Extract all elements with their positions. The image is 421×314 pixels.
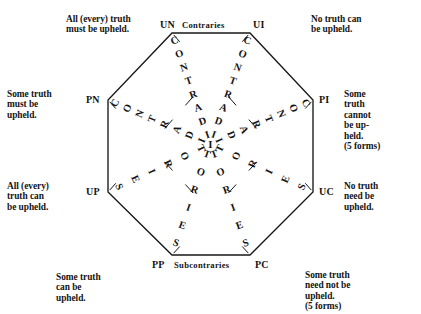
gloss-PI: Some truth cannot be up- held. (5 forms) bbox=[344, 89, 418, 151]
svg-text:I: I bbox=[263, 167, 275, 175]
svg-text:T: T bbox=[183, 74, 193, 87]
svg-text:R: R bbox=[221, 183, 232, 196]
svg-text:N: N bbox=[275, 108, 288, 120]
svg-text:O: O bbox=[215, 165, 226, 178]
vertex-label-UP: UP bbox=[86, 186, 100, 197]
svg-text:C: C bbox=[169, 34, 180, 47]
svg-text:N: N bbox=[232, 61, 243, 74]
gloss-UP: All (every) truth can be upheld. bbox=[7, 181, 85, 212]
svg-text:A: A bbox=[170, 123, 183, 135]
svg-text:N: N bbox=[133, 107, 146, 119]
vertex-label-PP: PP bbox=[152, 259, 165, 270]
svg-text:A: A bbox=[218, 101, 229, 114]
svg-text:I: I bbox=[213, 136, 225, 144]
gloss-PC: Some truth need not be upheld. (5 forms) bbox=[305, 270, 409, 312]
gloss-UC: No truth need be upheld. bbox=[344, 181, 418, 212]
svg-text:D: D bbox=[197, 115, 208, 128]
svg-text:I: I bbox=[185, 201, 192, 213]
svg-text:R: R bbox=[162, 158, 175, 170]
svg-text:D: D bbox=[183, 129, 196, 140]
svg-text:A: A bbox=[238, 124, 251, 136]
svg-text:E: E bbox=[234, 219, 244, 232]
svg-text:O: O bbox=[178, 150, 191, 162]
svg-text:O: O bbox=[195, 165, 206, 178]
svg-text:R: R bbox=[158, 118, 171, 130]
svg-text:E: E bbox=[279, 173, 292, 184]
svg-text:E: E bbox=[129, 174, 142, 185]
vertex-label-UC: UC bbox=[319, 186, 334, 197]
svg-text:C: C bbox=[242, 34, 253, 47]
svg-text:D: D bbox=[225, 129, 238, 140]
svg-text:T: T bbox=[228, 74, 238, 87]
vertex-label-PN: PN bbox=[86, 94, 100, 105]
gloss-UI: No truth can be upheld. bbox=[311, 14, 417, 35]
svg-text:A: A bbox=[193, 101, 204, 114]
edge-label-contraries: Contraries bbox=[182, 20, 225, 31]
svg-text:C: C bbox=[300, 97, 313, 108]
svg-text:O: O bbox=[174, 47, 185, 60]
svg-text:S: S bbox=[113, 182, 126, 192]
vertex-label-UI: UI bbox=[253, 19, 265, 30]
svg-text:N: N bbox=[179, 61, 190, 74]
svg-text:T: T bbox=[263, 114, 276, 125]
gloss-PP: Some truth can be upheld. bbox=[56, 272, 148, 303]
vertex-label-PC: PC bbox=[255, 259, 269, 270]
edge-label-subcontraries: Subcontraries bbox=[174, 260, 229, 271]
svg-text:S: S bbox=[295, 182, 308, 192]
svg-text:E: E bbox=[177, 219, 187, 232]
svg-text:T: T bbox=[146, 113, 159, 124]
figure-canvas: CONTRADITORIESCONTRADITORIESCONTRADITORI… bbox=[0, 0, 421, 314]
svg-text:O: O bbox=[287, 102, 300, 114]
svg-text:C: C bbox=[108, 97, 121, 108]
svg-text:R: R bbox=[246, 157, 259, 169]
gloss-UN: All (every) truth must be upheld. bbox=[66, 14, 176, 35]
vertex-label-PI: PI bbox=[319, 94, 329, 105]
center-letter-i: I bbox=[208, 138, 212, 150]
svg-text:I: I bbox=[146, 167, 158, 175]
svg-text:I: I bbox=[229, 201, 237, 213]
svg-text:O: O bbox=[120, 102, 133, 114]
svg-text:R: R bbox=[250, 119, 263, 131]
svg-text:O: O bbox=[237, 47, 248, 60]
svg-text:R: R bbox=[188, 88, 199, 101]
svg-text:R: R bbox=[189, 183, 200, 196]
svg-text:O: O bbox=[229, 150, 242, 162]
svg-text:R: R bbox=[223, 88, 234, 101]
svg-text:D: D bbox=[213, 115, 224, 128]
gloss-PN: Some truth must be upheld. bbox=[7, 89, 85, 120]
